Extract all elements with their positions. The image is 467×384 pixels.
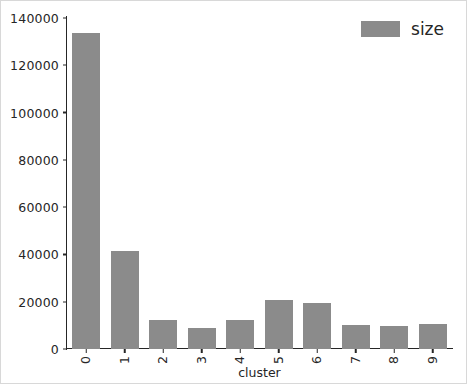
- bar: [303, 303, 331, 349]
- y-axis-tick: 80000: [18, 152, 67, 167]
- x-axis-tick: 2: [157, 349, 170, 364]
- y-axis-tick-mark: [63, 348, 67, 349]
- y-axis-tick-mark: [63, 206, 67, 207]
- x-axis-tick-label: 0: [80, 356, 93, 364]
- y-axis-tick: 20000: [18, 294, 67, 309]
- x-axis-tick-label: 3: [196, 356, 209, 364]
- x-axis-tick-mark: [163, 349, 164, 353]
- x-axis-tick: 1: [119, 349, 132, 364]
- x-axis-tick-mark: [240, 349, 241, 353]
- x-axis-tick-label: 7: [350, 356, 363, 364]
- y-axis-tick-label: 20000: [18, 294, 63, 309]
- y-axis-tick-label: 140000: [10, 11, 63, 26]
- y-axis-tick-mark: [63, 159, 67, 160]
- x-axis-tick-mark: [124, 349, 125, 353]
- x-axis-tick-label: 5: [273, 356, 286, 364]
- y-axis-tick: 40000: [18, 247, 67, 262]
- y-axis-tick: 60000: [18, 200, 67, 215]
- y-axis-tick-label: 100000: [10, 105, 63, 120]
- x-axis-tick: 7: [350, 349, 363, 364]
- x-axis-tick-label: 1: [119, 356, 132, 364]
- x-axis-tick-mark: [86, 349, 87, 353]
- bar: [188, 328, 216, 349]
- bar: [226, 320, 254, 349]
- x-axis-tick-label: 8: [388, 356, 401, 364]
- bar: [72, 33, 100, 349]
- bar-chart-figure: 020000400006000080000100000120000140000 …: [0, 0, 467, 384]
- y-axis-tick: 100000: [10, 105, 67, 120]
- y-axis-tick-mark: [63, 65, 67, 66]
- x-axis-tick-mark: [317, 349, 318, 353]
- x-axis-tick-mark: [201, 349, 202, 353]
- x-axis-tick-mark: [278, 349, 279, 353]
- y-axis-tick-label: 40000: [18, 247, 63, 262]
- y-axis-tick: 140000: [10, 11, 67, 26]
- y-axis-tick-label: 120000: [10, 58, 63, 73]
- x-axis-tick-label: 6: [311, 356, 324, 364]
- x-axis-tick-label: 4: [234, 356, 247, 364]
- x-axis-tick-mark: [394, 349, 395, 353]
- bar: [419, 324, 447, 349]
- bar: [265, 300, 293, 349]
- x-axis-tick: 8: [388, 349, 401, 364]
- x-axis-tick-label: 9: [427, 356, 440, 364]
- x-axis-tick-mark: [355, 349, 356, 353]
- y-axis-tick-label: 60000: [18, 200, 63, 215]
- y-axis-tick: 0: [51, 342, 67, 357]
- chart-legend: size: [355, 15, 450, 43]
- y-axis-tick-mark: [63, 17, 67, 18]
- bar: [380, 326, 408, 349]
- y-axis-tick-label: 0: [51, 342, 63, 357]
- x-axis-tick: 3: [196, 349, 209, 364]
- bar: [111, 251, 139, 349]
- plot-area: 020000400006000080000100000120000140000 …: [67, 18, 452, 349]
- legend-label-size: size: [411, 19, 444, 39]
- x-axis-tick-label: 2: [157, 356, 170, 364]
- legend-swatch-size: [361, 21, 400, 37]
- bar: [342, 325, 370, 349]
- y-axis-tick-mark: [63, 254, 67, 255]
- x-axis-tick: 4: [234, 349, 247, 364]
- x-axis-tick: 9: [427, 349, 440, 364]
- y-axis-tick-mark: [63, 112, 67, 113]
- y-axis-tick-label: 80000: [18, 152, 63, 167]
- x-axis-tick: 0: [80, 349, 93, 364]
- x-axis-title: cluster: [67, 365, 452, 380]
- x-axis-tick: 5: [273, 349, 286, 364]
- x-axis-tick: 6: [311, 349, 324, 364]
- y-axis-tick: 120000: [10, 58, 67, 73]
- x-axis-tick-mark: [432, 349, 433, 353]
- y-axis-tick-mark: [63, 301, 67, 302]
- bar: [149, 320, 177, 349]
